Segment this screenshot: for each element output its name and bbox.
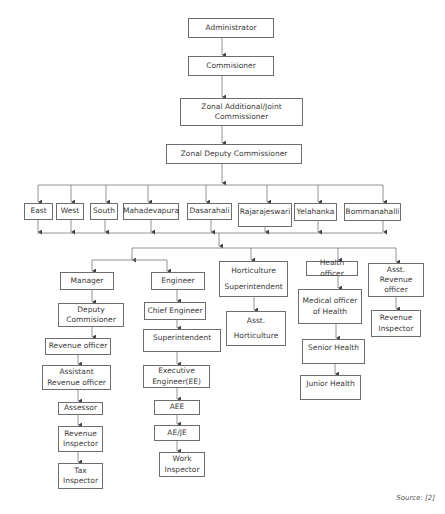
- node-work-inspector: Work Inspector: [159, 452, 205, 477]
- horticulture-line2: Superintendent: [224, 282, 282, 292]
- asst-horticulture-line2: Horticulture: [234, 331, 279, 341]
- zone-south: South: [90, 203, 118, 220]
- zone-dasarahali: Dasarahali: [187, 203, 232, 220]
- node-horticulture-superintendent: Horticulture Superintendent: [219, 261, 288, 297]
- node-aee: AEE: [154, 400, 200, 415]
- zone-mahadevapura: Mahadevapura: [123, 203, 179, 220]
- zone-rajarajeswari: Rajarajeswari: [238, 203, 292, 227]
- node-senior-health: Senior Health: [302, 339, 365, 364]
- node-engineer: Engineer: [151, 272, 205, 290]
- zone-east: East: [24, 203, 53, 220]
- node-chief-engineer: Chief Engineer: [144, 302, 206, 320]
- node-revenue-inspector-asst: Revenue Inspector: [371, 310, 421, 337]
- source-caption: Source: [2]: [396, 494, 435, 502]
- horticulture-line1: Horticulture: [231, 266, 276, 276]
- node-zonal-joint-commissioner: Zonal Additional/Joint Commissioner: [180, 98, 303, 126]
- zone-west: West: [56, 203, 84, 220]
- node-junior-health: Junior Health: [300, 375, 361, 400]
- node-commisioner: Commisioner: [188, 56, 274, 76]
- node-manager: Manager: [60, 272, 114, 290]
- node-asst-horticulture: Asst. Horticulture: [226, 311, 286, 346]
- node-assistant-revenue-officer: Assistant Revenue officer: [42, 365, 111, 390]
- node-asst-revenue-officer: Asst. Revenue officer: [368, 263, 424, 297]
- zone-bommanahalli: Bommanahalli: [344, 203, 401, 221]
- node-deputy-commisioner: Deputy Commisioner: [58, 303, 124, 327]
- node-zonal-deputy-commissioner: Zonal Deputy Commissioner: [166, 144, 302, 164]
- node-tax-inspector: Tax Inspector: [58, 463, 103, 489]
- node-ae-je: AE/JE: [154, 425, 200, 441]
- node-assessor: Assessor: [58, 402, 103, 415]
- node-executive-engineer: Executive Engineer(EE): [143, 365, 210, 388]
- asst-horticulture-line1: Asst.: [247, 316, 265, 326]
- node-medical-officer-of-health: Medical officer of Health: [298, 289, 362, 324]
- node-administrator: Administrator: [188, 18, 274, 38]
- node-superintendent: Superintendent: [143, 329, 221, 352]
- node-revenue-inspector-manager: Revenue Inspector: [58, 426, 103, 452]
- zone-yelahanka: Yelahanka: [294, 203, 337, 221]
- node-health-officer: Health officer: [306, 261, 358, 276]
- node-revenue-officer: Revenue officer: [45, 338, 111, 355]
